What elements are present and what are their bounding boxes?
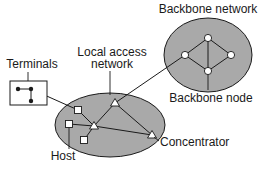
terminals-box <box>10 81 47 105</box>
host-icon <box>81 137 88 144</box>
terminals-label: Terminals <box>6 57 57 71</box>
host-icon <box>66 121 73 128</box>
terminals-group <box>10 81 47 105</box>
local-access-network-label-line2: network <box>91 57 134 71</box>
network-diagram: Backbone network Backbone node Local acc… <box>0 0 269 176</box>
terminal-icon <box>29 99 33 103</box>
terminal-icon <box>16 87 20 91</box>
terminal-icon <box>29 87 33 91</box>
backbone-node-icon <box>227 51 234 58</box>
backbone-node-icon <box>204 67 211 74</box>
backbone-network-label: Backbone network <box>159 2 259 16</box>
backbone-node-icon <box>181 51 188 58</box>
backbone-node-label: Backbone node <box>169 91 253 105</box>
host-icon <box>75 107 82 114</box>
backbone-node-icon <box>204 34 211 41</box>
host-label: Host <box>51 149 76 163</box>
concentrator-label: Concentrator <box>160 135 229 149</box>
